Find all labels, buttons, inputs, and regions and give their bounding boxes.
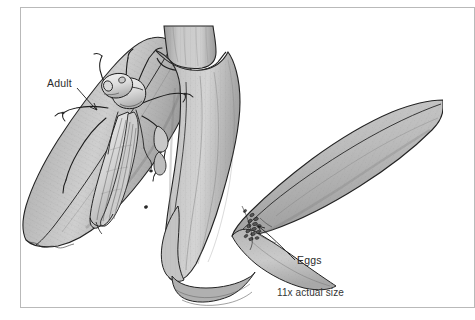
figure-border xyxy=(20,7,475,308)
label-adult: Adult xyxy=(47,78,72,89)
label-eggs: Eggs xyxy=(297,255,322,266)
label-scale-caption: 11x actual size xyxy=(277,288,344,298)
